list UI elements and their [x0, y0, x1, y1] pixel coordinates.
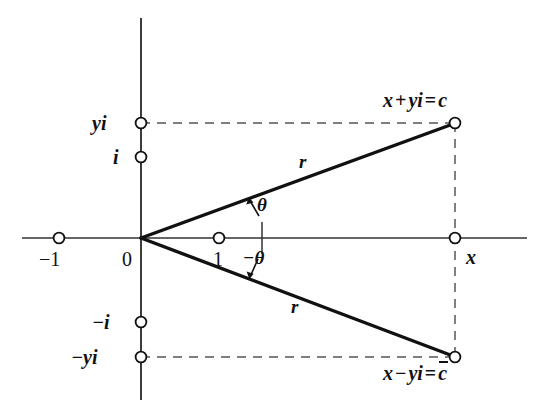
ray-to-c: [141, 124, 453, 238]
complex-plane-figure: yi i −i −yi −1 0 1 x θ −θ r r x+yi=c x−y…: [0, 0, 547, 417]
axis-label-x: x: [466, 247, 476, 267]
equation-c-term-x: x: [383, 89, 393, 111]
angle-label-theta: θ: [257, 195, 267, 214]
axis-label-yi: yi: [92, 113, 106, 133]
point-c-conjugate[interactable]: [450, 352, 461, 363]
axis-label-neg-i: −i: [92, 312, 110, 332]
point-neg-i[interactable]: [136, 317, 147, 328]
equation-c-result: c: [438, 89, 447, 111]
axis-label-i: i: [113, 147, 119, 167]
axis-label-zero: 0: [122, 249, 132, 269]
radius-label-lower: r: [291, 297, 298, 316]
equation-label-c-conjugate: x−yi=c: [383, 363, 447, 383]
axis-label-neg-yi: −yi: [71, 347, 98, 367]
equation-cbar-term-x: x: [383, 362, 393, 384]
equation-cbar-equals-sign: =: [423, 362, 438, 384]
point-yi[interactable]: [136, 118, 147, 129]
point-neg-yi[interactable]: [136, 352, 147, 363]
equation-cbar-term-yi: yi: [408, 362, 422, 384]
point-i[interactable]: [136, 152, 147, 163]
point-x[interactable]: [450, 233, 461, 244]
angle-label-neg-theta: −θ: [243, 248, 264, 267]
axis-label-neg-one: −1: [39, 249, 60, 269]
equation-c-term-yi: yi: [408, 89, 422, 111]
equation-cbar-minus-sign: −: [393, 362, 408, 384]
point-c[interactable]: [450, 118, 461, 129]
axis-label-one: 1: [213, 249, 223, 269]
equation-label-c: x+yi=c: [383, 90, 447, 110]
equation-c-plus-sign: +: [393, 89, 408, 111]
equation-cbar-result-with-overbar: c: [438, 363, 447, 383]
point-one[interactable]: [214, 233, 225, 244]
equation-c-equals-sign: =: [423, 89, 438, 111]
point-neg-one[interactable]: [54, 233, 65, 244]
radius-label-upper: r: [299, 152, 306, 171]
